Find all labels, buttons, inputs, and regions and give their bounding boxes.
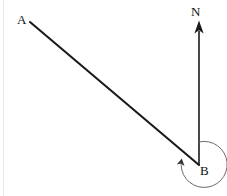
- point-label-b: B: [200, 164, 209, 177]
- bearing-diagram-canvas: [0, 0, 227, 196]
- north-reference-arrow: [194, 21, 203, 166]
- point-label-a: A: [17, 13, 26, 26]
- north-label: N: [191, 5, 200, 18]
- segment-a-to-b: [30, 22, 199, 165]
- bearing-diagram-figure: A B N: [0, 0, 227, 196]
